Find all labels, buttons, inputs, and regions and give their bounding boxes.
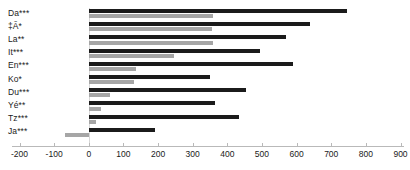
bar-series-gray bbox=[89, 41, 214, 45]
bar-series-dark bbox=[89, 35, 286, 39]
x-tick-label: 300 bbox=[186, 150, 200, 159]
x-tick-label: 600 bbox=[289, 150, 303, 159]
x-tick bbox=[331, 143, 332, 147]
x-tick-label: 700 bbox=[324, 150, 338, 159]
x-tick bbox=[193, 143, 194, 147]
x-tick bbox=[366, 143, 367, 147]
category-label: Da*** bbox=[8, 9, 78, 18]
bar-series-gray bbox=[89, 54, 174, 58]
bar-series-dark bbox=[89, 22, 311, 26]
bar-series-dark bbox=[89, 49, 260, 53]
bar-series-gray bbox=[89, 93, 110, 97]
category-label: La** bbox=[8, 35, 78, 44]
plot-area: Da***‡Ã*La**It***En***Ko*Du***Yé**Tz***J… bbox=[0, 0, 410, 140]
category-label: Tz*** bbox=[8, 114, 78, 123]
bar-series-gray bbox=[89, 120, 96, 124]
bar-series-dark bbox=[89, 101, 215, 105]
x-tick-label: 0 bbox=[86, 150, 91, 159]
x-tick bbox=[54, 143, 55, 147]
bar-series-gray bbox=[89, 80, 134, 84]
category-label: It*** bbox=[8, 48, 78, 57]
x-axis-line bbox=[12, 146, 404, 147]
bar-series-gray bbox=[89, 14, 214, 18]
category-label: Du*** bbox=[8, 88, 78, 97]
x-tick bbox=[227, 143, 228, 147]
bar-series-dark bbox=[89, 115, 240, 119]
x-tick bbox=[297, 143, 298, 147]
x-tick-label: 400 bbox=[220, 150, 234, 159]
bar-series-dark bbox=[89, 88, 247, 92]
x-tick-label: 900 bbox=[393, 150, 407, 159]
x-tick-label: 500 bbox=[255, 150, 269, 159]
bar-chart: Da***‡Ã*La**It***En***Ko*Du***Yé**Tz***J… bbox=[0, 0, 410, 170]
x-tick bbox=[20, 143, 21, 147]
bar-series-gray bbox=[89, 107, 101, 111]
bar-series-gray bbox=[89, 67, 136, 71]
x-tick-label: 100 bbox=[116, 150, 130, 159]
bar-series-dark bbox=[89, 62, 293, 66]
category-label: Yé** bbox=[8, 101, 78, 110]
x-tick bbox=[123, 143, 124, 147]
x-tick-label: -200 bbox=[11, 150, 28, 159]
category-label: En*** bbox=[8, 61, 78, 70]
bar-series-gray bbox=[89, 27, 212, 31]
x-tick-label: 200 bbox=[151, 150, 165, 159]
x-tick bbox=[158, 143, 159, 147]
bar-series-dark bbox=[89, 9, 347, 13]
x-tick-label: -100 bbox=[46, 150, 63, 159]
category-label: Ja*** bbox=[8, 127, 78, 136]
bar-series-dark bbox=[89, 128, 155, 132]
category-label: ‡Ã* bbox=[8, 22, 78, 31]
bar-series-dark bbox=[89, 75, 210, 79]
category-label: Ko* bbox=[8, 75, 78, 84]
x-tick bbox=[262, 143, 263, 147]
x-tick bbox=[89, 143, 90, 147]
x-tick bbox=[401, 143, 402, 147]
x-tick-label: 800 bbox=[359, 150, 373, 159]
